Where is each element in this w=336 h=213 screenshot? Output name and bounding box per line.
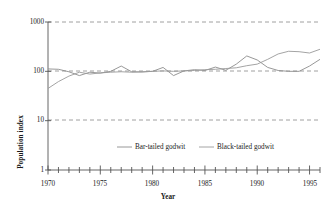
legend-label-black-tailed-godwit: Black-tailed godwit [217,143,274,151]
series-line-black-tailed-godwit [48,49,320,88]
series-line-bar-tailed-godwit [48,56,320,76]
population-index-line-chart: Population index Year 1000 100 10 1 1970… [0,0,336,213]
legend-label-bar-tailed-godwit: Bar-tailed godwit [135,143,185,151]
chart-canvas [0,0,336,213]
